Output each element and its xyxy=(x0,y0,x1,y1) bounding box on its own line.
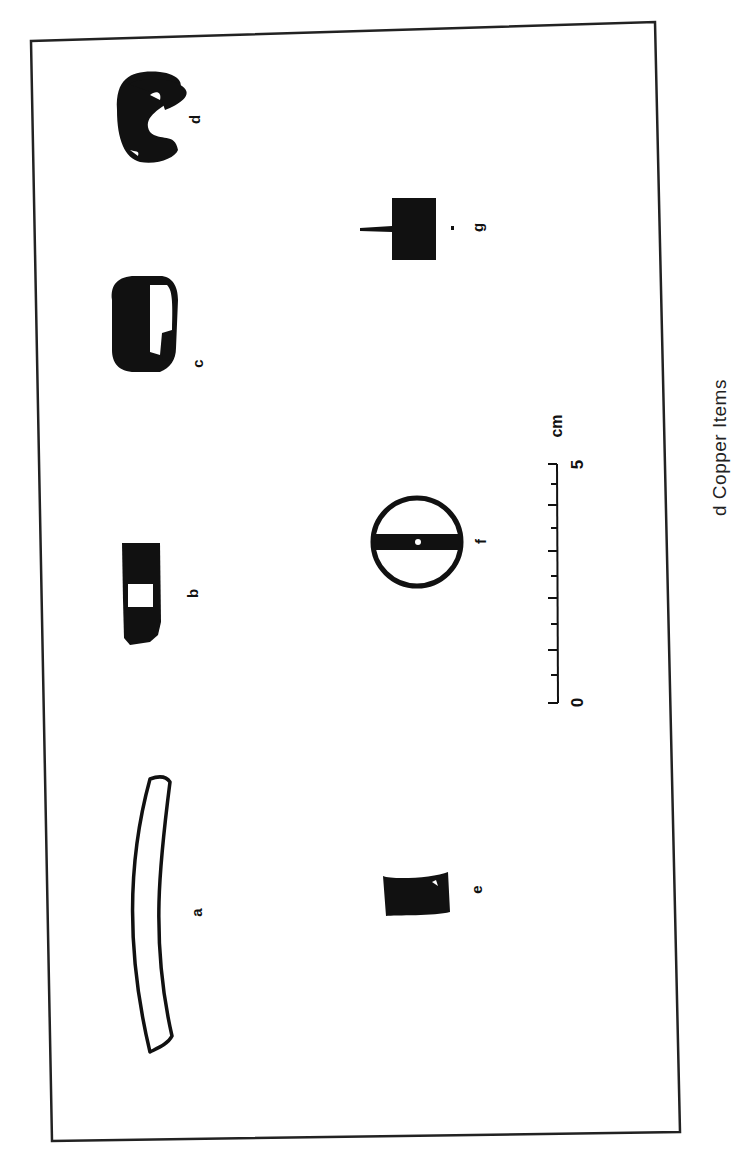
item-e-block-shape xyxy=(383,872,450,916)
item-b-fragment-shape xyxy=(122,543,161,645)
item-label-e: e xyxy=(469,885,484,893)
scale-unit: cm xyxy=(549,414,565,437)
item-a-curved-bar-shape xyxy=(132,777,172,1052)
item-label-b: b xyxy=(185,589,200,598)
item-label-c: c xyxy=(190,359,205,367)
caption-text: d Copper Items xyxy=(709,379,730,741)
item-d-ring-shape xyxy=(117,72,187,163)
item-f-disc-shape xyxy=(373,498,461,586)
item-c-nugget-shape xyxy=(112,276,178,372)
item-label-d: d xyxy=(187,115,202,124)
scale-label-end: 5 xyxy=(569,460,586,469)
item-label-a: a xyxy=(189,908,204,916)
scale-label-start: 0 xyxy=(569,698,586,707)
scale-bar xyxy=(548,464,558,703)
item-label-f: f xyxy=(473,539,488,544)
figure-caption: d Copper Items xyxy=(709,341,731,741)
item-label-g: g xyxy=(470,223,485,232)
item-g-square-pin-shape xyxy=(360,198,454,260)
